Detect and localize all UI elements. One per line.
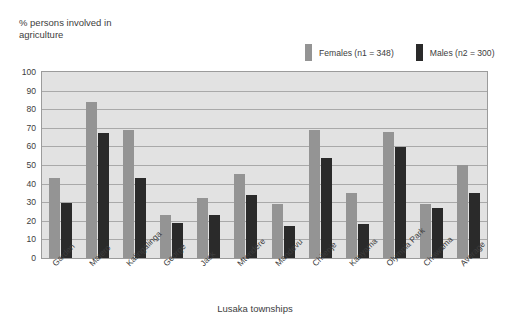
legend-swatch-females [305,44,312,61]
bar-male [98,133,109,258]
legend-label-males: Males (n2 = 300) [430,48,495,58]
x-axis-title: Lusaka townships [0,303,510,314]
y-tick-label: 30 [0,197,36,207]
bar-group [309,72,332,258]
bar-group [160,72,183,258]
y-axis-ticks: 1009080706050403020100 [0,71,36,259]
y-tick-label: 80 [0,104,36,114]
y-tick-label: 90 [0,86,36,96]
legend-item-females: Females (n1 = 348) [305,44,394,61]
bar-female [383,132,394,258]
y-tick-label: 10 [0,234,36,244]
bar-group [457,72,480,258]
y-tick-label: 100 [0,67,36,77]
legend-item-males: Males (n2 = 300) [416,44,495,61]
bar-female [272,204,283,258]
y-tick-label: 60 [0,141,36,151]
bar-group [272,72,295,258]
bar-female [234,174,245,258]
y-tick-label: 20 [0,216,36,226]
bar-female [86,102,97,258]
bar-group [197,72,220,258]
y-tick-label: 70 [0,123,36,133]
chart-legend: Females (n1 = 348) Males (n2 = 300) [305,44,495,61]
bar-group [346,72,369,258]
bar-group [86,72,109,258]
legend-swatch-males [416,44,423,61]
bar-group [123,72,146,258]
bar-group [234,72,257,258]
y-tick-label: 40 [0,179,36,189]
bar-female [197,198,208,258]
y-axis-title: % persons involved in agriculture [19,17,129,41]
bar-group [383,72,406,258]
bar-group [49,72,72,258]
legend-label-females: Females (n1 = 348) [319,48,394,58]
bar-female [49,178,60,258]
bar-female [457,165,468,258]
y-tick-label: 0 [0,253,36,263]
bar-female [309,130,320,258]
bar-female [346,193,357,258]
bar-female [123,130,134,258]
y-tick-label: 50 [0,160,36,170]
